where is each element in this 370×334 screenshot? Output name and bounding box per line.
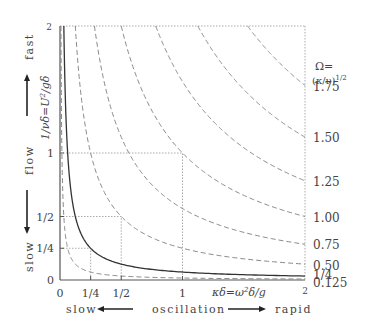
y-annotation-flow: flow	[23, 145, 36, 175]
y-annotation-slow: slow	[23, 241, 36, 272]
x-tick-label: 0	[57, 287, 64, 300]
x-tick-label: 2	[302, 286, 308, 296]
curve-label: 0.50	[313, 259, 340, 273]
arrow-up-icon	[24, 74, 30, 116]
x-tick-label: 1/4	[82, 287, 100, 300]
curve-omega-075	[94, 26, 305, 244]
x-tick-label: 1	[179, 287, 186, 300]
omega-label-line1: Ω=	[315, 60, 333, 73]
y-tick-label: 0	[47, 274, 54, 287]
y-axis-label: 1/νδ=U2/gδ	[39, 75, 52, 140]
curve-omega-175	[248, 26, 305, 86]
x-annotation-slow: slow	[66, 303, 97, 316]
arrow-down-icon	[24, 190, 30, 234]
curve-omega-14	[64, 26, 305, 276]
x-tick-label: 1/2	[112, 287, 130, 300]
omega-label-line2: (κ/ν)1/2	[312, 74, 347, 86]
x-annotation-oscillation: oscillation	[152, 303, 226, 316]
x-annotation-rapid: rapid	[275, 303, 312, 316]
guide-boxes	[60, 153, 183, 280]
curve-omega-150	[198, 26, 305, 137]
y-tick-label: 1/2	[36, 211, 54, 224]
arrow-left-icon	[97, 306, 133, 312]
y-annotation-fast: fast	[23, 33, 36, 60]
y-tick-label: 2	[46, 22, 52, 32]
x-axis-label: κδ=ω2δ/g	[211, 286, 266, 299]
curve-labels: 0.1251/40.500.751.001.251.501.75	[313, 80, 347, 290]
curve-omega-050	[75, 26, 305, 264]
y-tick-label: 1	[47, 147, 54, 160]
curve-omega-125	[156, 26, 305, 181]
arrow-right-icon	[228, 306, 266, 312]
curve-label: 1.25	[313, 175, 340, 189]
curve-label: 0.75	[313, 238, 340, 252]
y-tick-label: 1/4	[36, 242, 54, 255]
curve-label: 1.00	[313, 211, 340, 225]
curve-label: 1.50	[313, 131, 340, 145]
chart: 01/41/21201/41/212 0.1251/40.500.751.001…	[0, 0, 370, 334]
